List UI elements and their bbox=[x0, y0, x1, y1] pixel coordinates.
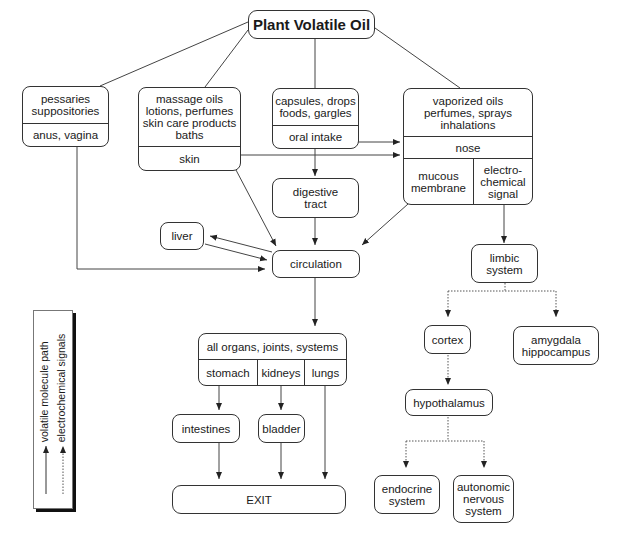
diagram-title: Plant Volatile Oil bbox=[253, 19, 370, 31]
bladder-node: bladder bbox=[258, 414, 305, 443]
amygdala-line-1: amygdala bbox=[531, 334, 581, 346]
rectal-product-1: pessaries bbox=[41, 93, 90, 105]
inhaled-product-3: inhalations bbox=[441, 119, 496, 131]
oral-product-2: foods, gargles bbox=[279, 107, 351, 119]
legend: volatile molecule path electrochemical s… bbox=[33, 310, 73, 509]
hypothalamus-label: hypothalamus bbox=[413, 397, 485, 409]
topical-route: skin bbox=[179, 153, 199, 165]
limbic-system-node: limbic system bbox=[471, 244, 538, 283]
endocrine-line-1: endocrine bbox=[382, 483, 433, 495]
intestines-label: intestines bbox=[182, 423, 231, 435]
oral-route: oral intake bbox=[289, 131, 342, 143]
amygdala-hippocampus-node: amygdala hippocampus bbox=[513, 326, 599, 365]
topical-product-3: skin care products bbox=[143, 117, 236, 129]
endocrine-system-node: endocrine system bbox=[374, 475, 440, 514]
circulation-label: circulation bbox=[290, 258, 342, 270]
electro-line-2: chemical bbox=[480, 176, 525, 188]
title-node: Plant Volatile Oil bbox=[248, 10, 375, 39]
mucous-line-2: membrane bbox=[411, 182, 466, 194]
autonomic-line-3: system bbox=[465, 505, 501, 517]
organ-lungs: lungs bbox=[312, 367, 340, 379]
digestive-line-1: digestive bbox=[293, 186, 338, 198]
liver-label: liver bbox=[171, 230, 192, 242]
topical-product-4: baths bbox=[175, 129, 203, 141]
mucous-line-1: mucous bbox=[418, 170, 458, 182]
circulation-node: circulation bbox=[272, 250, 360, 278]
cortex-node: cortex bbox=[424, 325, 471, 354]
autonomic-line-2: nervous bbox=[463, 493, 504, 505]
limbic-line-1: limbic bbox=[490, 252, 519, 264]
autonomic-nervous-system-node: autonomic nervous system bbox=[453, 475, 514, 523]
topical-product-1: massage oils bbox=[156, 93, 223, 105]
organ-kidneys: kidneys bbox=[262, 367, 301, 379]
rectal-route-node: pessaries suppositories anus, vagina bbox=[22, 86, 109, 147]
exit-label: EXIT bbox=[246, 494, 272, 506]
inhaled-product-1: vaporized oils bbox=[433, 95, 503, 107]
bladder-label: bladder bbox=[262, 423, 300, 435]
legend-solid-label: volatile molecule path bbox=[38, 333, 51, 442]
inhaled-product-2: perfumes, sprays bbox=[424, 107, 512, 119]
amygdala-line-2: hippocampus bbox=[522, 346, 590, 358]
electro-line-1: electro- bbox=[484, 164, 522, 176]
topical-route-node: massage oils lotions, perfumes skin care… bbox=[138, 87, 241, 171]
inhaled-route: nose bbox=[456, 142, 481, 154]
intestines-node: intestines bbox=[172, 414, 240, 443]
autonomic-line-1: autonomic bbox=[457, 481, 510, 493]
liver-node: liver bbox=[160, 222, 204, 250]
organ-stomach: stomach bbox=[206, 367, 249, 379]
topical-product-2: lotions, perfumes bbox=[146, 105, 234, 117]
oral-route-node: capsules, drops foods, gargles oral inta… bbox=[272, 88, 359, 149]
digestive-tract-node: digestive tract bbox=[272, 178, 359, 218]
hypothalamus-node: hypothalamus bbox=[405, 389, 493, 416]
cortex-label: cortex bbox=[432, 334, 463, 346]
organs-header: all organs, joints, systems bbox=[207, 341, 339, 353]
rectal-product-2: suppositories bbox=[32, 105, 100, 117]
legend-dotted-label: electrochemical signals bbox=[55, 333, 68, 442]
exit-node: EXIT bbox=[172, 485, 346, 514]
organs-node: all organs, joints, systems stomach kidn… bbox=[198, 333, 347, 386]
electro-line-3: signal bbox=[488, 188, 518, 200]
limbic-line-2: system bbox=[486, 264, 522, 276]
endocrine-line-2: system bbox=[389, 495, 425, 507]
digestive-line-2: tract bbox=[304, 198, 326, 210]
inhaled-route-node: vaporized oils perfumes, sprays inhalati… bbox=[403, 88, 533, 205]
rectal-route: anus, vagina bbox=[33, 129, 98, 141]
oral-product-1: capsules, drops bbox=[275, 95, 356, 107]
legend-text: volatile molecule path electrochemical s… bbox=[38, 333, 68, 442]
